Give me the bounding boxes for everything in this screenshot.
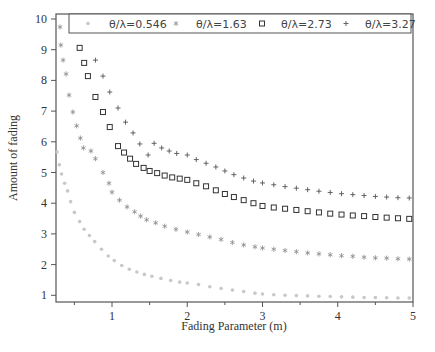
dot-marker <box>150 274 154 278</box>
y-tick-label: 9 <box>41 43 47 57</box>
y-tick-label: 4 <box>41 196 47 210</box>
dot-marker <box>340 295 344 299</box>
dot-marker <box>69 200 73 204</box>
legend-label: θ/λ=1.63 <box>196 18 247 31</box>
y-tick-label: 1 <box>41 288 47 302</box>
y-axis: 12345678910 <box>35 12 56 302</box>
x-tick-label: 1 <box>109 309 115 323</box>
dot-marker <box>159 277 163 281</box>
dot-marker <box>253 291 257 295</box>
dot-marker <box>58 163 62 167</box>
dot-marker <box>82 227 86 231</box>
y-tick-label: 10 <box>35 12 47 26</box>
legend-label: θ/λ=2.73 <box>281 18 332 31</box>
dot-marker <box>88 234 92 238</box>
dot-marker <box>328 295 332 299</box>
fading-chart: 12345678910 12345 θ/λ=0.546θ/λ=1.63θ/λ=2… <box>0 0 435 352</box>
y-tick-label: 6 <box>41 135 47 149</box>
legend-label: θ/λ=3.27 <box>365 18 416 31</box>
dot-marker <box>66 189 70 193</box>
legend-label: θ/λ=0.546 <box>109 18 167 31</box>
dot-marker <box>128 267 132 271</box>
dot-marker <box>208 285 212 289</box>
dot-marker <box>385 296 389 300</box>
dot-marker <box>143 273 147 277</box>
dot-marker <box>78 220 82 224</box>
dot-marker <box>362 296 366 300</box>
dot-marker <box>100 247 104 251</box>
y-tick-label: 3 <box>41 227 47 241</box>
x-tick-label: 4 <box>335 309 341 323</box>
dot-marker <box>374 296 378 300</box>
dot-marker <box>317 294 321 298</box>
dot-marker <box>272 293 276 297</box>
y-tick-label: 5 <box>41 166 47 180</box>
dot-marker <box>86 22 90 26</box>
dot-marker <box>135 270 139 274</box>
dot-marker <box>106 254 110 258</box>
dot-marker <box>231 288 235 292</box>
plot-area <box>56 14 413 302</box>
dot-marker <box>197 283 201 287</box>
dot-marker <box>63 181 67 185</box>
x-axis-title: Fading Parameter (m) <box>181 319 286 333</box>
dot-marker <box>242 290 246 294</box>
dot-marker <box>120 264 124 268</box>
dot-marker <box>60 172 64 176</box>
dot-marker <box>185 281 189 285</box>
legend: θ/λ=0.546θ/λ=1.63θ/λ=2.73θ/λ=3.27 <box>69 14 416 33</box>
dot-marker <box>283 294 287 298</box>
dot-marker <box>351 295 355 299</box>
dot-marker <box>73 211 77 215</box>
dot-marker <box>407 296 411 300</box>
dot-marker <box>93 240 97 244</box>
dot-marker <box>55 150 59 154</box>
y-tick-label: 7 <box>41 104 47 118</box>
dot-marker <box>396 296 400 300</box>
y-tick-label: 2 <box>41 258 47 272</box>
dot-marker <box>178 280 182 284</box>
dot-marker <box>169 279 173 283</box>
x-tick-label: 5 <box>410 309 416 323</box>
dot-marker <box>261 292 265 296</box>
y-tick-label: 8 <box>41 73 47 87</box>
y-axis-title: Amount of fading <box>6 115 20 201</box>
dot-marker <box>295 294 299 298</box>
dot-marker <box>112 259 116 263</box>
dot-marker <box>306 294 310 298</box>
dot-marker <box>219 287 223 291</box>
